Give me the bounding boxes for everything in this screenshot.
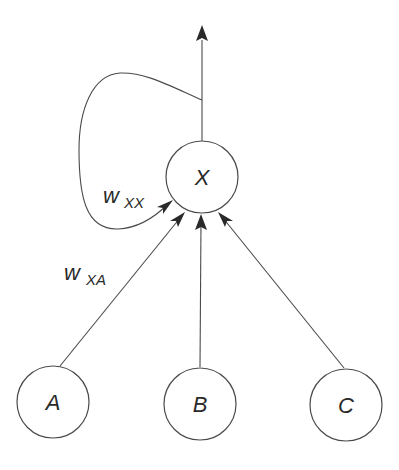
node-x: X bbox=[166, 141, 238, 213]
edge-b-to-x bbox=[195, 214, 207, 367]
node-c-label: C bbox=[338, 393, 354, 418]
weight-xx-subscript: XX bbox=[123, 194, 145, 211]
node-b: B bbox=[164, 368, 236, 440]
weight-label-wxa: w XA bbox=[64, 260, 106, 288]
weight-xa-symbol: w bbox=[64, 260, 82, 285]
node-b-label: B bbox=[193, 392, 208, 417]
weight-xx-symbol: w bbox=[103, 183, 121, 208]
weight-label-wxx: w XX bbox=[103, 183, 145, 211]
output-arrowhead-icon bbox=[196, 25, 208, 41]
weight-xa-subscript: XA bbox=[85, 271, 106, 288]
node-x-label: X bbox=[194, 165, 211, 190]
output-edge bbox=[196, 25, 208, 141]
node-a: A bbox=[17, 366, 89, 438]
edge-c-arrowhead-icon bbox=[218, 212, 233, 227]
edge-c-to-x bbox=[218, 212, 344, 368]
recurrent-neuron-diagram: X A B C w XX w XA bbox=[0, 0, 399, 470]
node-c: C bbox=[310, 369, 382, 441]
edge-a-to-x bbox=[60, 212, 185, 366]
edge-a-arrowhead-icon bbox=[170, 212, 185, 227]
node-a-label: A bbox=[44, 390, 61, 415]
